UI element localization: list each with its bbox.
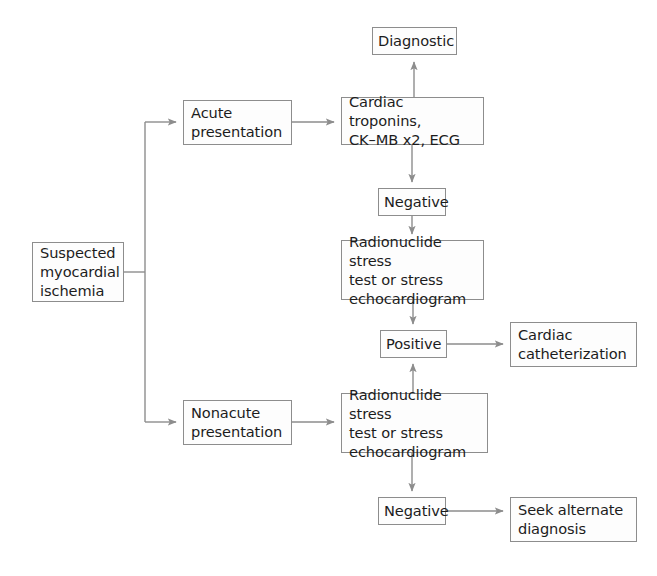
node-label-nonacute: Nonacute presentation <box>191 403 282 441</box>
node-label-stress1: Radionuclide stress test or stress echoc… <box>349 232 477 308</box>
node-label-stress2: Radionuclide stress test or stress echoc… <box>349 385 481 461</box>
node-label-positive: Positive <box>386 334 441 353</box>
node-label-diagnostic: Diagnostic <box>378 31 451 50</box>
figure-canvas: Suspected myocardial ischemiaAcute prese… <box>0 0 657 576</box>
node-label-cath: Cardiac catheterization <box>518 325 627 363</box>
node-label-acute: Acute presentation <box>191 103 282 141</box>
node-cath: Cardiac catheterization <box>510 322 637 367</box>
node-seek: Seek alternate diagnosis <box>510 497 637 542</box>
node-diagnostic: Diagnostic <box>372 27 457 55</box>
node-stress1: Radionuclide stress test or stress echoc… <box>341 240 484 300</box>
node-label-troponins: Cardiac troponins, CK–MB x2, ECG <box>349 92 477 149</box>
node-troponins: Cardiac troponins, CK–MB x2, ECG <box>341 97 484 145</box>
node-label-neg2: Negative <box>384 501 440 520</box>
node-start: Suspected myocardial ischemia <box>32 242 124 302</box>
node-neg1: Negative <box>378 188 446 216</box>
node-neg2: Negative <box>378 497 446 525</box>
node-label-neg1: Negative <box>384 192 440 211</box>
node-positive: Positive <box>380 330 447 358</box>
node-stress2: Radionuclide stress test or stress echoc… <box>341 393 488 453</box>
node-label-seek: Seek alternate diagnosis <box>518 500 623 538</box>
node-label-start: Suspected myocardial ischemia <box>40 243 120 300</box>
node-nonacute: Nonacute presentation <box>183 400 292 445</box>
node-acute: Acute presentation <box>183 100 292 145</box>
